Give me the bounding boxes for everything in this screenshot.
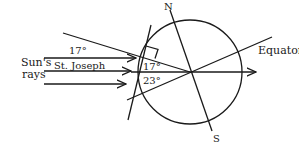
- inner-angle-upper-label: 17°: [143, 61, 161, 72]
- inner-angle-lower-label: 23°: [143, 75, 161, 86]
- equator-label: Equator: [258, 44, 299, 57]
- north-label: N: [164, 1, 173, 12]
- earth-sun-angle-diagram: Sun's rays 17° St. Joseph 17° 23° N S Eq…: [0, 0, 299, 144]
- location-label: St. Joseph: [54, 60, 106, 71]
- right-angle-marker: [146, 46, 158, 59]
- axis-line: [170, 10, 212, 131]
- south-label: S: [213, 133, 220, 144]
- suns-rays-label-line2: rays: [22, 68, 46, 81]
- top-angle-label: 17°: [69, 45, 87, 56]
